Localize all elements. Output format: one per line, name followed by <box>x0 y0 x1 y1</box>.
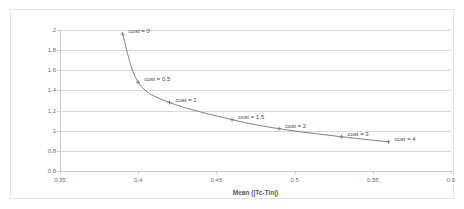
x-axis-tick-mark <box>373 171 374 174</box>
plot-area: cost = 0cost = 0.5cost = 1cost = 1.5cost… <box>60 30 451 171</box>
x-axis-tick-labels: 0.350.40.450.50.550.6 <box>60 177 451 187</box>
x-axis-tick-label: 0.6 <box>447 177 455 183</box>
x-axis-tick-label: 0.5 <box>290 177 298 183</box>
y-axis-tick-label: 1.6 <box>48 67 56 73</box>
y-axis-tick-label: 1.8 <box>48 47 56 53</box>
y-axis-tick-mark <box>57 30 60 31</box>
data-point-marker <box>386 140 390 144</box>
y-axis-tick-mark <box>57 70 60 71</box>
x-axis-tick-label: 0.4 <box>134 177 142 183</box>
y-axis-tick-label: 1.4 <box>48 87 56 93</box>
x-axis-title: Mean (|Tc-Tin|) <box>60 189 451 196</box>
data-point-label: cost = 2 <box>285 123 306 129</box>
data-point-label: cost = 1.5 <box>238 114 264 120</box>
y-axis-tick-label: 0.8 <box>48 148 56 154</box>
x-axis-tick-mark <box>295 171 296 174</box>
data-point-marker <box>167 101 171 105</box>
data-point-marker <box>121 32 125 36</box>
y-axis-tick-label: 2 <box>53 27 56 33</box>
x-axis-tick-mark <box>216 171 217 174</box>
data-point-label: cost = 1 <box>175 97 196 103</box>
data-point-label: cost = 0.5 <box>144 76 170 82</box>
chart-figure: cost = 0cost = 0.5cost = 1cost = 1.5cost… <box>0 0 464 209</box>
y-axis-tick-label: 1.2 <box>48 108 56 114</box>
data-point-label: cost = 0 <box>129 28 150 34</box>
data-point-marker <box>230 118 234 122</box>
y-axis-tick-label: 1 <box>53 128 56 134</box>
y-axis-tick-labels: 0.60.811.21.41.61.82 <box>11 30 56 171</box>
y-axis-tick-mark <box>57 151 60 152</box>
y-axis-tick-mark <box>57 111 60 112</box>
x-axis-tick-mark <box>138 171 139 174</box>
data-point-marker <box>340 135 344 139</box>
x-axis-tick-label: 0.35 <box>54 177 66 183</box>
series-line-chart <box>60 30 451 171</box>
data-point-label: cost = 4 <box>394 136 415 142</box>
x-axis-tick-mark <box>60 171 61 174</box>
y-axis-tick-mark <box>57 131 60 132</box>
x-axis-tick-label: 0.55 <box>367 177 379 183</box>
chart-frame: cost = 0cost = 0.5cost = 1cost = 1.5cost… <box>10 9 454 199</box>
y-axis-line <box>60 30 61 172</box>
y-axis-tick-mark <box>57 50 60 51</box>
x-axis-tick-mark <box>451 171 452 174</box>
data-point-label: cost = 3 <box>348 131 369 137</box>
x-axis-line <box>60 171 451 172</box>
series-markers <box>121 32 391 144</box>
y-axis-tick-label: 0.6 <box>48 168 56 174</box>
y-axis-tick-mark <box>57 90 60 91</box>
series-polyline <box>123 34 389 142</box>
data-point-marker <box>277 127 281 131</box>
x-axis-tick-label: 0.45 <box>211 177 223 183</box>
